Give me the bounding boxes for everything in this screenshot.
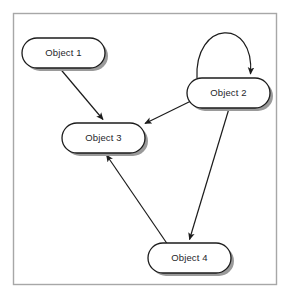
object-diagram: Object 1 Object 2 Object 3 Object 4: [0, 0, 291, 297]
node-object-2[interactable]: Object 2: [187, 78, 273, 111]
node-object-2-label: Object 2: [210, 87, 247, 98]
node-object-1[interactable]: Object 1: [22, 38, 108, 71]
node-object-3-label: Object 3: [85, 132, 122, 143]
diagram-canvas: Object 1 Object 2 Object 3 Object 4: [0, 0, 291, 297]
node-object-1-label: Object 1: [45, 47, 82, 58]
node-object-3[interactable]: Object 3: [62, 123, 148, 156]
node-object-4[interactable]: Object 4: [148, 243, 234, 276]
node-object-4-label: Object 4: [171, 252, 208, 263]
